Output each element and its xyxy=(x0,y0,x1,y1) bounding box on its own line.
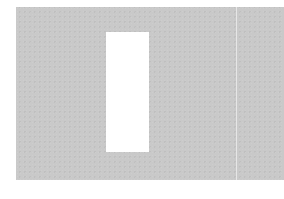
white-rectangle-cutout xyxy=(106,32,149,152)
vertical-fold-line xyxy=(236,7,237,180)
gray-card-panel xyxy=(16,7,284,180)
canvas xyxy=(0,0,284,199)
